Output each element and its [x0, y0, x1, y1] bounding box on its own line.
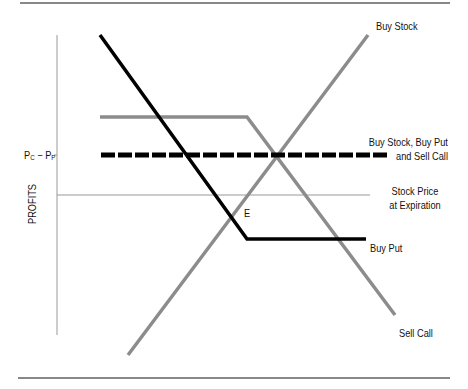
- buy-stock-label: Buy Stock: [376, 20, 418, 33]
- combo-label-line2: and Sell Call: [396, 150, 448, 163]
- y-tick-dash-p: − P: [35, 149, 52, 161]
- buy-put-label: Buy Put: [370, 242, 402, 255]
- combo-label-line1: Buy Stock, Buy Put: [369, 136, 448, 149]
- y-axis-label: PROFITS: [26, 182, 38, 226]
- sell-call-label: Sell Call: [399, 327, 433, 340]
- x-axis-label-line1: Stock Price: [375, 185, 454, 198]
- buy-put-line: [100, 35, 366, 239]
- y-tick-sub-p: P: [51, 154, 55, 161]
- point-e-label: E: [244, 207, 250, 220]
- y-tick-label: PC − PP: [24, 149, 55, 164]
- x-axis-label-line2: at Expiration: [375, 199, 454, 212]
